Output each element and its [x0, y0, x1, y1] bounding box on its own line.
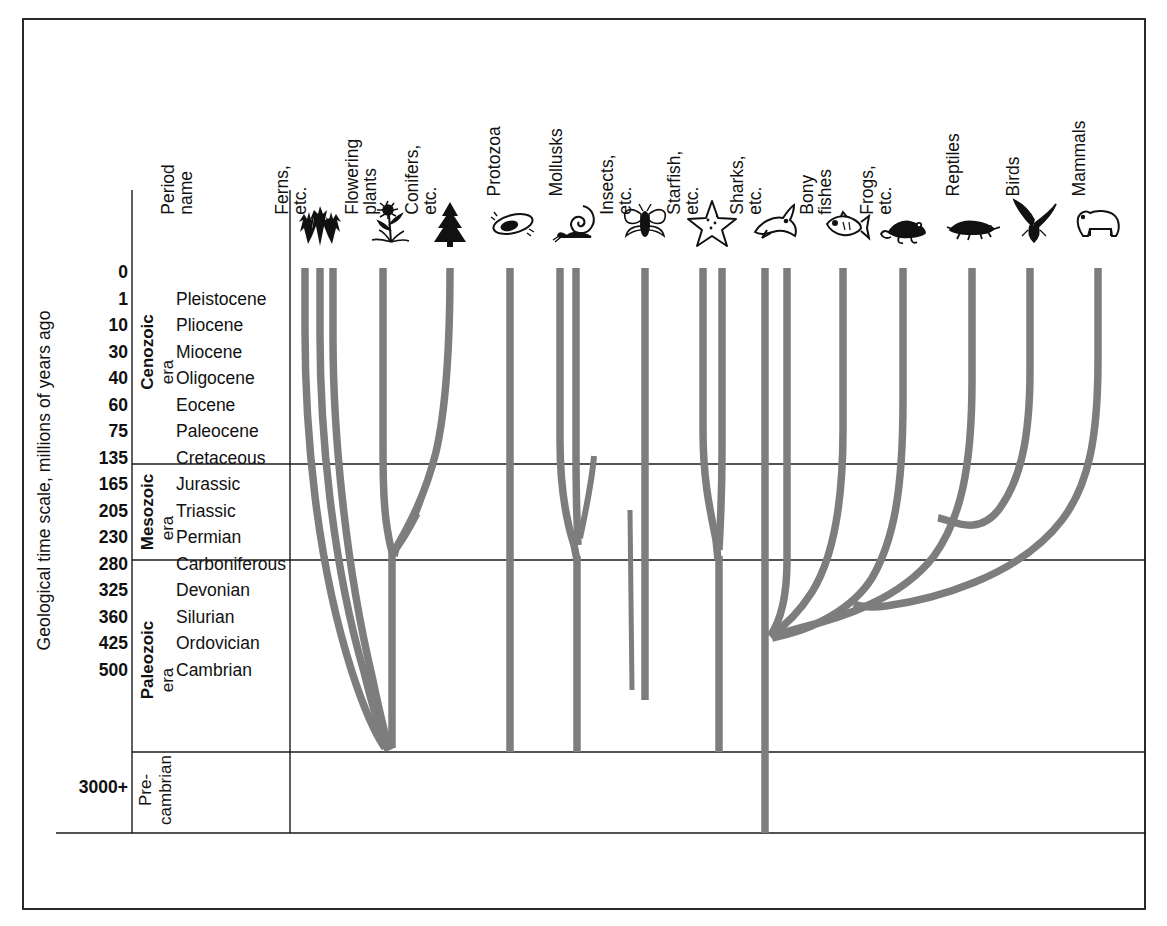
- period-name: Cambrian: [176, 660, 252, 681]
- protozoa-icon: [485, 196, 541, 250]
- age-value: 360: [38, 607, 128, 628]
- starfish-icon: [684, 196, 740, 250]
- column-header-reptile: Reptiles: [944, 133, 962, 196]
- age-value: 500: [38, 660, 128, 681]
- bird-icon: [1004, 196, 1060, 250]
- age-value: 40: [38, 368, 128, 389]
- lineage-branches: [305, 268, 1098, 833]
- age-value: 0: [38, 262, 128, 283]
- age-value: 425: [38, 633, 128, 654]
- branch-mammals: [854, 268, 1098, 607]
- branch-starfish-2: [719, 268, 722, 550]
- era-label-precambrian-line1: Pre-: [136, 740, 156, 840]
- column-header-protozoa: Protozoa: [485, 126, 503, 196]
- bonyfish-icon: [817, 196, 873, 250]
- column-header-line1: Protozoa: [485, 126, 503, 196]
- period-name: Permian: [176, 527, 241, 548]
- period-name: Pleistocene: [176, 289, 266, 310]
- period-name: Pliocene: [176, 315, 243, 336]
- mammal-icon: [1070, 196, 1126, 250]
- branch-birds: [938, 268, 1030, 525]
- branch-flowering: [383, 268, 392, 552]
- era-label-mesozoic: Mesozoic: [138, 462, 158, 562]
- column-header-bird: Birds: [1004, 157, 1022, 197]
- branch-sharks-2: [770, 268, 787, 636]
- period-name: Oligocene: [176, 368, 255, 389]
- period-name: Paleocene: [176, 421, 259, 442]
- era-sublabel: era: [158, 503, 178, 553]
- period-name: Silurian: [176, 607, 234, 628]
- shark-icon: [747, 196, 803, 250]
- age-value: 30: [38, 342, 128, 363]
- mollusk-icon: [547, 196, 603, 250]
- age-value: 205: [38, 501, 128, 522]
- age-value: 10: [38, 315, 128, 336]
- age-value: 75: [38, 421, 128, 442]
- column-header-line1: Mollusks: [547, 128, 565, 196]
- age-value: 60: [38, 395, 128, 416]
- frog-icon: [877, 196, 933, 250]
- age-value: 135: [38, 448, 128, 469]
- era-label-precambrian-line2: cambrian: [156, 740, 176, 840]
- era-label-cenozoic: Cenozoic: [138, 302, 158, 402]
- figure-page: Geological time scale, millions of years…: [0, 0, 1167, 926]
- period-name: Cretaceous: [176, 448, 266, 469]
- branch-frogs: [772, 268, 903, 638]
- fern-icon: [292, 196, 348, 250]
- column-header-line1: Birds: [1004, 157, 1022, 197]
- reptile-icon: [944, 196, 1000, 250]
- period-name: Devonian: [176, 580, 250, 601]
- branch-mollusk-twig: [580, 456, 594, 538]
- era-sublabel: era: [158, 655, 178, 705]
- branch-conifers: [394, 268, 450, 556]
- period-header-line1: Period: [159, 164, 177, 215]
- branch-mollusks-2: [576, 268, 578, 545]
- branch-insects-twig: [630, 510, 632, 690]
- column-header-line1: Mammals: [1070, 121, 1088, 197]
- era-label-paleozoic: Paleozoic: [138, 610, 158, 710]
- period-header-line2: name: [178, 164, 196, 215]
- period-name: Jurassic: [176, 474, 240, 495]
- branch-bony-fishes: [770, 268, 843, 636]
- branch-starfish-1: [703, 268, 718, 560]
- age-value: 325: [38, 580, 128, 601]
- era-sublabel: era: [158, 347, 178, 397]
- period-name: Triassic: [176, 501, 236, 522]
- age-value: 1: [38, 289, 128, 310]
- age-value: 3000+: [36, 777, 128, 798]
- period-name: Carboniferous: [176, 554, 286, 575]
- age-value: 165: [38, 474, 128, 495]
- period-name: Ordovician: [176, 633, 260, 654]
- column-header-line1: Ferns,: [273, 165, 291, 215]
- conifer-icon: [422, 196, 478, 250]
- column-header-mammal: Mammals: [1070, 121, 1088, 197]
- column-header-line1: Reptiles: [944, 133, 962, 196]
- period-name: Eocene: [176, 395, 235, 416]
- age-value: 230: [38, 527, 128, 548]
- flower-icon: [362, 196, 418, 250]
- age-value: 280: [38, 554, 128, 575]
- branch-conifer-twig: [392, 514, 418, 556]
- period-name: Miocene: [176, 342, 242, 363]
- insect-icon: [617, 196, 673, 250]
- period-name-header: Period name: [159, 164, 196, 215]
- column-header-mollusk: Mollusks: [547, 128, 565, 196]
